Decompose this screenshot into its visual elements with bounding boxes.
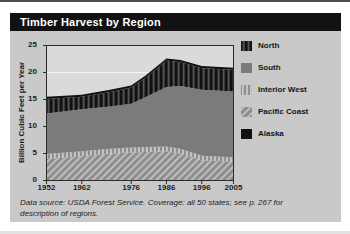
x-tick-label: 1952 <box>38 183 56 193</box>
source-note: Data source: USDA Forest Service. Covera… <box>20 198 300 220</box>
legend-swatch-interior-west <box>241 85 252 95</box>
y-tick-label: 5 <box>19 148 37 158</box>
x-tick-label: 2005 <box>225 183 243 193</box>
x-tick-label: 1962 <box>73 183 91 193</box>
x-tick-label: 1996 <box>193 183 211 193</box>
bottom-edge-strip <box>0 231 350 234</box>
legend-item-pacific-coast: Pacific Coast <box>241 107 308 117</box>
legend-swatch-south <box>241 63 252 73</box>
figure-title-bar: Timber Harvest by Region <box>10 13 341 31</box>
y-tick-label: 25 <box>19 40 37 50</box>
y-tick-label: 0 <box>19 175 37 185</box>
legend-label: South <box>258 63 281 73</box>
x-tick-label: 1976 <box>122 183 140 193</box>
page: Timber Harvest by Region Billion Cubic F… <box>0 0 350 234</box>
y-axis-title: Billion Cubic Feet per Year <box>17 45 28 180</box>
timber-chart-svg <box>41 45 234 186</box>
legend-label: Pacific Coast <box>258 107 308 117</box>
legend-item-north: North <box>241 41 308 51</box>
y-tick-label: 15 <box>19 94 37 104</box>
legend-swatch-alaska <box>241 129 252 139</box>
legend: NorthSouthInterior WestPacific CoastAlas… <box>241 41 308 151</box>
y-tick-label: 10 <box>19 121 37 131</box>
plot-area <box>41 45 234 186</box>
legend-label: North <box>258 41 279 51</box>
y-tick-label: 20 <box>19 67 37 77</box>
x-tick-label: 1986 <box>158 183 176 193</box>
figure-title: Timber Harvest by Region <box>10 13 341 31</box>
legend-swatch-pacific-coast <box>241 107 252 117</box>
legend-item-interior-west: Interior West <box>241 85 308 95</box>
top-edge-strip <box>0 0 350 2</box>
timber-harvest-figure: Timber Harvest by Region Billion Cubic F… <box>10 13 341 222</box>
legend-label: Alaska <box>258 129 284 139</box>
legend-item-south: South <box>241 63 308 73</box>
legend-item-alaska: Alaska <box>241 129 308 139</box>
legend-swatch-north <box>241 41 252 51</box>
legend-label: Interior West <box>258 85 307 95</box>
